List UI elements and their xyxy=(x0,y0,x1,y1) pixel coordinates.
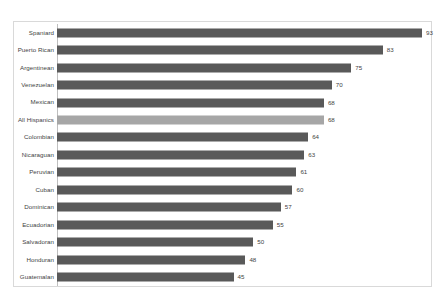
bar-category-label: Honduran xyxy=(14,257,57,263)
chart-figure: Spaniard93Puerto Rican83Argentinean75Ven… xyxy=(13,21,432,287)
bar-row: Puerto Rican83 xyxy=(14,41,433,58)
bar-value-label: 68 xyxy=(328,117,335,123)
bar-rect xyxy=(57,28,422,37)
bar-track: 93 xyxy=(57,24,433,41)
bar-rect xyxy=(57,63,351,72)
bar-category-label: Ecuadorian xyxy=(14,222,57,228)
bar-category-label: All Hispanics xyxy=(14,117,57,123)
bar-category-label: Peruvian xyxy=(14,169,57,175)
bar-row: Venezuelan70 xyxy=(14,76,433,93)
bar-rect xyxy=(57,238,253,247)
bar-category-label: Mexican xyxy=(14,99,57,105)
bar-value-label: 64 xyxy=(312,134,319,140)
bar-row: Honduran48 xyxy=(14,251,433,268)
bar-track: 70 xyxy=(57,76,433,93)
bar-row: Nicaraguan63 xyxy=(14,146,433,163)
bar-series: Spaniard93Puerto Rican83Argentinean75Ven… xyxy=(14,24,433,286)
bar-track: 64 xyxy=(57,129,433,146)
bar-rect-highlighted xyxy=(57,115,324,124)
bar-category-label: Venezuelan xyxy=(14,82,57,88)
bar-rect xyxy=(57,98,324,107)
bar-row: Guatemalan45 xyxy=(14,268,433,285)
bar-category-label: Guatemalan xyxy=(14,274,57,280)
bar-rect xyxy=(57,150,304,159)
bar-track: 57 xyxy=(57,199,433,216)
bar-rect xyxy=(57,185,292,194)
bar-category-label: Dominican xyxy=(14,204,57,210)
bar-row: Mexican68 xyxy=(14,94,433,111)
bar-rect xyxy=(57,46,383,55)
bar-track: 60 xyxy=(57,181,433,198)
bar-row: Cuban60 xyxy=(14,181,433,198)
bar-row: Salvadoran50 xyxy=(14,233,433,250)
bar-row: Spaniard93 xyxy=(14,24,433,41)
bar-track: 55 xyxy=(57,216,433,233)
bar-category-label: Colombian xyxy=(14,134,57,140)
bar-category-label: Puerto Rican xyxy=(14,47,57,53)
bar-value-label: 70 xyxy=(336,82,343,88)
bar-rect xyxy=(57,220,273,229)
bar-category-label: Nicaraguan xyxy=(14,152,57,158)
bar-rect xyxy=(57,255,245,264)
bar-rect xyxy=(57,168,296,177)
bar-track: 61 xyxy=(57,164,433,181)
bar-value-label: 48 xyxy=(249,257,256,263)
bar-row: Peruvian61 xyxy=(14,164,433,181)
bar-category-label: Salvadoran xyxy=(14,239,57,245)
bar-track: 68 xyxy=(57,94,433,111)
bar-rect xyxy=(57,203,281,212)
bar-category-label: Argentinean xyxy=(14,65,57,71)
bar-value-label: 93 xyxy=(426,30,433,36)
bar-row: Colombian64 xyxy=(14,129,433,146)
bar-rect xyxy=(57,273,234,282)
bar-category-label: Cuban xyxy=(14,187,57,193)
bar-track: 83 xyxy=(57,41,433,58)
bar-row: Dominican57 xyxy=(14,199,433,216)
bar-row: Ecuadorian55 xyxy=(14,216,433,233)
bar-value-label: 57 xyxy=(285,204,292,210)
bar-value-label: 45 xyxy=(238,274,245,280)
bar-rect xyxy=(57,81,332,90)
bar-track: 50 xyxy=(57,233,433,250)
bar-track: 63 xyxy=(57,146,433,163)
bar-row: All Hispanics68 xyxy=(14,111,433,128)
bar-value-label: 68 xyxy=(328,99,335,105)
bar-rect xyxy=(57,133,308,142)
bar-track: 48 xyxy=(57,251,433,268)
bar-row: Argentinean75 xyxy=(14,59,433,76)
bar-value-label: 83 xyxy=(387,47,394,53)
bar-track: 45 xyxy=(57,268,433,285)
bar-value-label: 50 xyxy=(257,239,264,245)
plot-area: Spaniard93Puerto Rican83Argentinean75Ven… xyxy=(14,22,431,286)
bar-category-label: Spaniard xyxy=(14,30,57,36)
bar-value-label: 63 xyxy=(308,152,315,158)
bar-value-label: 60 xyxy=(296,187,303,193)
bar-value-label: 75 xyxy=(355,65,362,71)
bar-track: 75 xyxy=(57,59,433,76)
bar-value-label: 55 xyxy=(277,222,284,228)
bar-track: 68 xyxy=(57,111,433,128)
bar-value-label: 61 xyxy=(300,169,307,175)
